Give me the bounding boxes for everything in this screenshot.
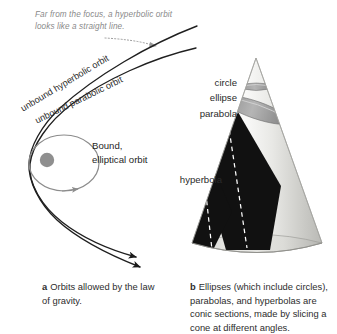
conic-sections-figure: Far from the focus, a hyperbolic orbit l…	[0, 0, 337, 334]
parabola-label: parabola	[152, 108, 237, 120]
ellipse-label: ellipse	[157, 92, 237, 104]
circle-label: circle	[157, 77, 237, 89]
focus-body-dot	[40, 153, 54, 167]
caption-b-letter: b	[190, 281, 196, 292]
caption-a: aOrbits allowed by the law of gravity.	[42, 280, 164, 307]
leader-dotted-line	[105, 38, 152, 45]
caption-a-letter: a	[42, 281, 47, 292]
hyperbola-straight-line-annotation: Far from the focus, a hyperbolic orbit l…	[35, 9, 185, 33]
elliptical-orbit	[29, 135, 99, 191]
caption-a-text: Orbits allowed by the law of gravity.	[42, 281, 154, 306]
caption-b: bEllipses (which include circles), parab…	[190, 280, 330, 334]
caption-b-text: Ellipses (which include circles), parabo…	[190, 281, 328, 333]
bound-elliptical-orbit-label: Bound, elliptical orbit	[92, 139, 152, 166]
hyperbola-label: hyperbola	[140, 174, 222, 186]
